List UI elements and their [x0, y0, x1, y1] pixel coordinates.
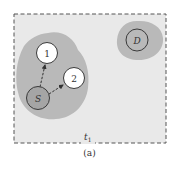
node-2-label: 2 — [71, 74, 77, 84]
node-source-label: S — [35, 94, 41, 104]
node-2: 2 — [64, 68, 85, 89]
figure-caption: (a) — [0, 148, 179, 158]
node-destination: D — [126, 29, 148, 51]
node-source: S — [27, 87, 50, 110]
node-1: 1 — [37, 43, 58, 64]
node-destination-label: D — [132, 36, 140, 46]
diagram-canvas: 1 2 S D t1 — [0, 0, 179, 169]
time-label-subscript: 1 — [88, 136, 92, 143]
node-1-label: 1 — [44, 49, 50, 59]
